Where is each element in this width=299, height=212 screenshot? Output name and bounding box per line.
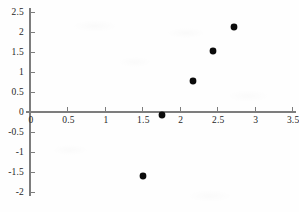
y-axis-line xyxy=(29,8,31,196)
plot-area: 00.511.522.533.5 2.521.510.50-0.5-1-1.5-… xyxy=(0,0,299,212)
y-axis-tick xyxy=(31,92,35,93)
data-point xyxy=(159,112,165,118)
x-axis-tick-label: 3.5 xyxy=(287,115,299,125)
y-axis-tick xyxy=(31,192,35,193)
y-axis-tick-label: 1 xyxy=(0,67,24,77)
y-axis-tick xyxy=(31,32,35,33)
x-axis-tick xyxy=(180,107,181,111)
data-point xyxy=(190,78,196,84)
y-axis-tick-label: -1 xyxy=(0,147,24,157)
y-axis-tick-label: 2.5 xyxy=(0,7,24,17)
x-axis-tick xyxy=(292,107,293,111)
y-axis-tick xyxy=(31,172,35,173)
y-axis-tick xyxy=(31,12,35,13)
x-axis-tick-label: 1.5 xyxy=(137,115,149,125)
data-point xyxy=(210,48,216,54)
data-point xyxy=(231,24,237,30)
y-axis-tick-label: -1.5 xyxy=(0,167,24,177)
x-axis-tick xyxy=(217,107,218,111)
x-axis-tick xyxy=(67,107,68,111)
y-axis-tick-label: -2 xyxy=(0,187,24,197)
x-axis-tick xyxy=(105,107,106,111)
y-axis-tick-label: 2 xyxy=(0,27,24,37)
x-axis-tick-label: 0.5 xyxy=(62,115,74,125)
y-axis-tick-label: 0 xyxy=(0,107,24,117)
y-axis-tick-label: 1.5 xyxy=(0,47,24,57)
scatter-plot-figure: 00.511.522.533.5 2.521.510.50-0.5-1-1.5-… xyxy=(0,0,299,212)
y-axis-tick xyxy=(31,132,35,133)
data-point xyxy=(140,173,146,179)
y-axis-tick xyxy=(31,72,35,73)
x-axis-tick xyxy=(255,107,256,111)
y-axis-tick xyxy=(31,52,35,53)
y-axis-tick-label: 0.5 xyxy=(0,87,24,97)
x-axis-tick-label: 1 xyxy=(103,115,108,125)
x-axis-tick-label: 0 xyxy=(29,115,34,125)
x-axis-tick-label: 3 xyxy=(253,115,258,125)
y-axis-tick xyxy=(31,152,35,153)
x-axis-tick-label: 2 xyxy=(178,115,183,125)
x-axis-tick-label: 2.5 xyxy=(212,115,224,125)
y-axis-tick-label: -0.5 xyxy=(0,127,24,137)
x-axis-tick xyxy=(142,107,143,111)
